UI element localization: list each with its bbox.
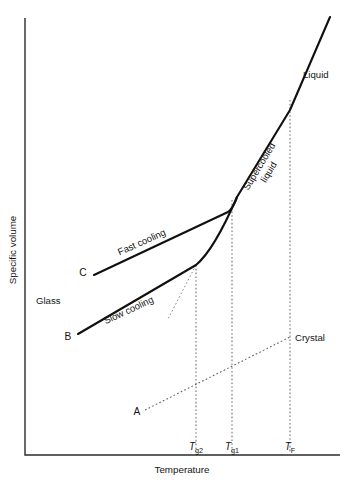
tick-label-tg2: Tg2 [189, 441, 203, 455]
glass-transition-diagram: C B A Glass Crystal Liquid Supercooled l… [0, 0, 350, 487]
tick-label-tg1: Tg1 [225, 441, 239, 455]
region-label-glass: Glass [36, 295, 61, 306]
region-label-liquid: Liquid [303, 69, 329, 80]
point-label-c: C [79, 267, 86, 278]
point-label-b: B [65, 331, 72, 342]
point-label-a: A [134, 406, 141, 417]
curve-label-slow-cooling: Slow cooling [102, 294, 155, 327]
region-label-supercooled-liquid: Supercooled liquid [241, 140, 287, 197]
tick-tg2-sub: g2 [195, 446, 203, 455]
y-axis-title: Specific volume [7, 215, 18, 284]
tick-label-tf: TF [285, 441, 296, 455]
x-axis-title: Temperature [155, 464, 211, 475]
slow-cooling-curve [78, 197, 237, 334]
crystal-curve [145, 337, 290, 410]
chart-svg: C B A Glass Crystal Liquid Supercooled l… [0, 0, 350, 487]
tick-tf-sub: F [291, 446, 296, 455]
region-label-crystal: Crystal [295, 332, 325, 343]
axis-lines [25, 18, 340, 455]
y-axis-title-group: Specific volume [7, 215, 18, 284]
tick-tg1-sub: g1 [231, 446, 239, 455]
slow-cooling-label: Slow cooling [102, 294, 155, 327]
